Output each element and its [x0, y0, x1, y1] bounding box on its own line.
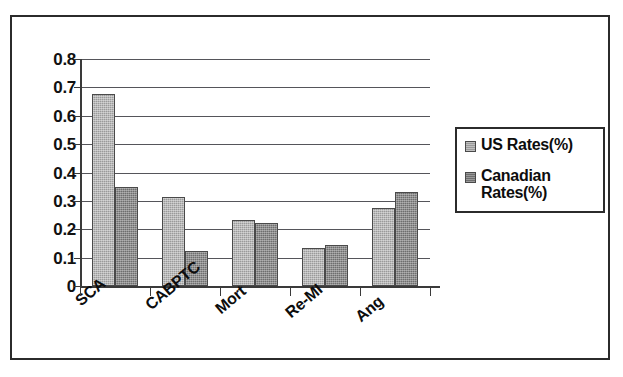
bar-group [220, 59, 290, 286]
x-axis-tick-mark [80, 288, 81, 296]
y-axis-tick-mark [74, 201, 81, 202]
y-axis-tick-label: 0.7 [24, 79, 76, 96]
y-axis-tick-mark [74, 59, 81, 60]
bar-canadian [255, 223, 278, 286]
y-axis-tick-label: 0.3 [24, 192, 76, 209]
y-axis-tick-mark [74, 87, 81, 88]
bar-group [290, 59, 360, 286]
x-axis-category-label: Ang [352, 292, 387, 325]
chart-screenshot: 0.80.70.60.50.40.30.20.10 SCACABPTCMortR… [0, 0, 623, 377]
legend-label: US Rates(%) [481, 137, 573, 154]
y-axis-tick-label: 0.4 [24, 164, 76, 181]
bar-canadian [325, 245, 348, 286]
x-axis-tick-mark [150, 288, 151, 296]
chart-frame: 0.80.70.60.50.40.30.20.10 SCACABPTCMortR… [10, 15, 610, 360]
bar-us [372, 208, 395, 286]
legend-entry: US Rates(%) [465, 137, 597, 154]
y-axis-line [80, 59, 82, 288]
y-axis-tick-mark [74, 229, 81, 230]
bar-us [92, 94, 115, 286]
y-axis-tick-mark [74, 258, 81, 259]
bar-group [150, 59, 220, 286]
x-axis-tick-mark [290, 288, 291, 296]
canadian-swatch-icon [465, 172, 476, 183]
y-axis-tick-mark [74, 173, 81, 174]
y-axis-tick-mark [74, 144, 81, 145]
bar-us [232, 220, 255, 286]
plot-area [80, 59, 430, 286]
bar-group [360, 59, 430, 286]
legend-entry: Canadian Rates(%) [465, 168, 597, 202]
y-axis-tick-label: 0.8 [24, 51, 76, 68]
bar-canadian [395, 192, 418, 286]
y-axis-tick-label: 0.1 [24, 249, 76, 266]
y-axis-tick-mark [74, 286, 81, 287]
legend-label: Canadian Rates(%) [481, 168, 597, 202]
y-axis-tick-mark [74, 116, 81, 117]
bar-group [80, 59, 150, 286]
y-axis-tick-label: 0.5 [24, 136, 76, 153]
x-axis-line [80, 286, 440, 288]
chart-legend: US Rates(%)Canadian Rates(%) [455, 127, 605, 213]
y-axis-tick-label: 0.6 [24, 107, 76, 124]
x-axis-tick-mark [220, 288, 221, 296]
y-axis-tick-label: 0.2 [24, 221, 76, 238]
y-axis-labels: 0.80.70.60.50.40.30.20.10 [20, 59, 76, 286]
y-axis-tick-label: 0 [24, 278, 76, 295]
x-axis-tick-mark [430, 288, 431, 296]
us-swatch-icon [465, 141, 476, 152]
bar-canadian [115, 187, 138, 286]
x-axis-tick-mark [360, 288, 361, 296]
